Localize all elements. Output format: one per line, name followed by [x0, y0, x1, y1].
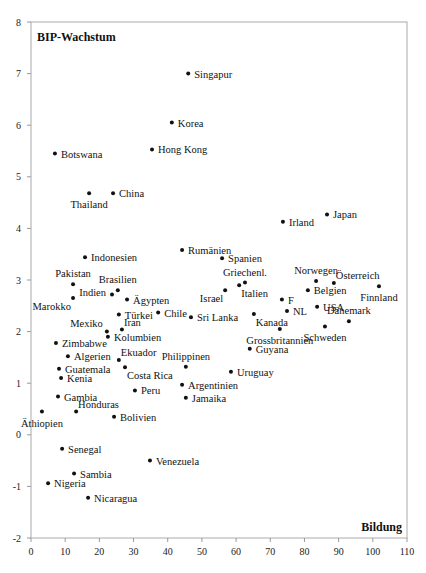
point-label: NL	[293, 306, 307, 317]
data-point: Zimbabwe	[54, 338, 107, 349]
point-marker	[223, 288, 227, 292]
point-marker	[133, 388, 137, 392]
y-tick-label: 5	[16, 171, 21, 182]
x-tick-label: 60	[231, 546, 241, 557]
point-label: Rumänien	[188, 245, 232, 256]
data-point: Sri Lanka	[189, 312, 238, 323]
point-label: Äthiopien	[21, 418, 64, 429]
point-marker	[170, 121, 174, 125]
point-label: China	[119, 188, 144, 199]
x-tick-label: 30	[129, 546, 139, 557]
point-marker	[184, 396, 188, 400]
point-label: Indien	[79, 287, 107, 298]
point-marker	[281, 220, 285, 224]
point-label: Brasilien	[99, 274, 138, 285]
point-marker	[71, 282, 75, 286]
point-label: Venezuela	[156, 456, 199, 467]
data-point: Venezuela	[148, 456, 199, 467]
point-label: Belgien	[314, 285, 347, 296]
point-label: Griechenl.	[223, 267, 267, 278]
point-marker	[252, 312, 256, 316]
point-marker	[116, 288, 120, 292]
point-label: Argentinien	[188, 380, 239, 391]
point-marker	[105, 330, 109, 334]
point-marker	[56, 395, 60, 399]
point-marker	[248, 347, 252, 351]
x-tick-label: 50	[197, 546, 207, 557]
point-label: Nigeria	[54, 478, 86, 489]
point-label: Mexiko	[70, 318, 103, 329]
point-label: Hong Kong	[158, 144, 208, 155]
point-marker	[243, 281, 247, 285]
scatter-chart: -2-1012345678 0102030405060708090100110 …	[0, 0, 426, 573]
point-label: Honduras	[78, 399, 119, 410]
point-label: Uruguay	[237, 367, 274, 378]
point-marker	[150, 147, 154, 151]
x-tick-label: 70	[265, 546, 275, 557]
point-marker	[377, 284, 381, 288]
point-label: Senegal	[68, 444, 101, 455]
point-label: Kenia	[67, 373, 92, 384]
point-label: Philippinen	[162, 351, 211, 362]
point-label: Singapur	[194, 69, 232, 80]
point-label: Norwegen	[294, 265, 338, 276]
data-point: Botswana	[53, 149, 103, 160]
y-tick-label: 4	[16, 223, 21, 234]
point-marker	[59, 376, 63, 380]
point-label: Pakistan	[55, 268, 91, 279]
point-marker	[54, 341, 58, 345]
point-label: Ekuador	[121, 347, 157, 358]
point-marker	[112, 415, 116, 419]
point-marker	[180, 248, 184, 252]
point-marker	[46, 481, 50, 485]
point-label: Bolivien	[120, 412, 157, 423]
point-marker	[306, 288, 310, 292]
point-label: Japan	[333, 209, 358, 220]
point-marker	[83, 255, 87, 259]
point-label: Österreich	[336, 270, 380, 281]
x-tick-label: 20	[94, 546, 104, 557]
point-label: Indonesien	[91, 252, 138, 263]
point-marker	[148, 459, 152, 463]
point-marker	[220, 256, 224, 260]
x-tick-label: 80	[299, 546, 309, 557]
point-label: Jamaika	[192, 393, 227, 404]
y-tick-label: 7	[16, 68, 21, 79]
point-label: Thailand	[70, 199, 108, 210]
point-marker	[53, 152, 57, 156]
y-tick-label: 3	[16, 275, 21, 286]
point-marker	[57, 367, 61, 371]
point-label: Peru	[141, 385, 161, 396]
data-point: Nicaragua	[86, 493, 137, 504]
point-marker	[180, 383, 184, 387]
point-label: Marokko	[33, 301, 72, 312]
y-tick-label: 8	[16, 17, 21, 28]
point-label: Algerien	[74, 351, 111, 362]
point-label: Chile	[164, 308, 187, 319]
y-tick-label: 6	[16, 120, 21, 131]
point-label: Dänemark	[327, 305, 371, 316]
data-point: Argentinien	[180, 380, 239, 391]
point-label: Korea	[178, 118, 204, 129]
data-point: Hong Kong	[150, 144, 208, 155]
point-marker	[347, 319, 351, 323]
point-label: Israel	[200, 293, 223, 304]
y-tick-label: -2	[13, 533, 21, 544]
y-tick-label: 0	[16, 429, 21, 440]
point-marker	[189, 315, 193, 319]
point-label: Iran	[124, 317, 142, 328]
point-marker	[325, 212, 329, 216]
point-marker	[314, 279, 318, 283]
point-marker	[40, 410, 44, 414]
point-marker	[87, 191, 91, 195]
point-marker	[323, 324, 327, 328]
point-marker	[71, 296, 75, 300]
point-label: Sri Lanka	[197, 312, 238, 323]
point-label: Costa Rica	[127, 370, 173, 381]
point-label: Botswana	[61, 149, 103, 160]
point-label: Kolumbien	[114, 332, 162, 343]
x-tick-label: 110	[400, 546, 415, 557]
point-marker	[184, 365, 188, 369]
point-label: F	[288, 295, 294, 306]
point-label: Kanada	[256, 317, 288, 328]
